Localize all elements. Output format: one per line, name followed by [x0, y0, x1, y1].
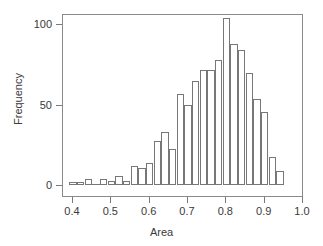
x-axis-tick-mark [110, 197, 111, 203]
x-axis-tick-label: 0.5 [103, 206, 118, 217]
x-axis-tick-mark [187, 197, 188, 203]
histogram-bar [100, 179, 108, 185]
y-axis-tick-mark [56, 185, 62, 186]
x-axis-tick-label: 0.9 [256, 206, 271, 217]
histogram-figure: 050100 0.40.50.60.70.80.91.0 Frequency A… [0, 0, 323, 246]
histogram-bar [253, 99, 261, 185]
histogram-bar [85, 179, 93, 185]
x-axis-tick-label: 0.6 [141, 206, 156, 217]
x-axis-tick-label: 0.8 [218, 206, 233, 217]
histogram-bar [246, 73, 254, 185]
y-axis-tick-label: 0 [46, 180, 52, 191]
histogram-bar [77, 182, 85, 185]
histogram-bar [169, 149, 177, 185]
x-axis-tick-mark [149, 197, 150, 203]
plot-frame [62, 14, 303, 197]
histogram-bar [161, 132, 169, 185]
x-axis-tick-mark [302, 197, 303, 203]
y-axis-tick-mark [56, 105, 62, 106]
x-axis-tick-mark [72, 197, 73, 203]
y-axis-title: Frequency [12, 59, 24, 139]
plot-area [63, 15, 302, 196]
histogram-bar [192, 81, 200, 185]
histogram-bar [154, 141, 162, 185]
histogram-bar [92, 184, 100, 185]
histogram-bar [207, 70, 215, 185]
histogram-bar [69, 182, 77, 185]
histogram-bar [146, 163, 154, 185]
x-axis-tick-label: 0.7 [179, 206, 194, 217]
x-axis-tick-label: 0.4 [64, 206, 79, 217]
histogram-bar [223, 18, 231, 185]
histogram-bar [215, 60, 223, 185]
histogram-bar [131, 166, 139, 185]
x-axis-tick-mark [264, 197, 265, 203]
histogram-bar [115, 176, 123, 185]
histogram-bar [269, 157, 277, 185]
histogram-bar [138, 168, 146, 185]
histogram-bar [123, 181, 131, 185]
y-axis-tick-label: 100 [34, 19, 52, 30]
x-axis-tick-label: 1.0 [294, 206, 309, 217]
histogram-bar [238, 50, 246, 185]
x-axis-title: Area [0, 226, 323, 238]
histogram-bar [108, 181, 116, 185]
histogram-bar [184, 105, 192, 185]
histogram-bar [230, 44, 238, 185]
y-axis-tick-mark [56, 24, 62, 25]
histogram-bar [177, 94, 185, 185]
y-axis-tick-label: 50 [40, 100, 52, 111]
histogram-bar [276, 171, 284, 185]
histogram-bar [261, 112, 269, 185]
histogram-bar [200, 70, 208, 185]
x-axis-tick-mark [225, 197, 226, 203]
